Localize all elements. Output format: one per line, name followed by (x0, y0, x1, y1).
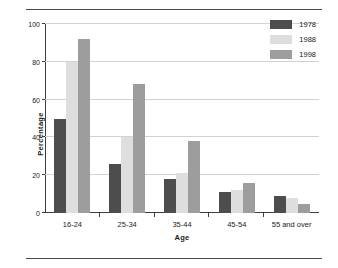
bar-group: 35-44 (155, 24, 210, 213)
x-axis-title: Age (45, 233, 319, 242)
x-tick-mark (154, 213, 155, 217)
x-tick-mark (208, 213, 209, 217)
bottom-divider-rule (26, 258, 322, 259)
y-tick-label: 100 (28, 21, 40, 28)
bar[interactable] (219, 192, 231, 213)
bar[interactable] (133, 84, 145, 213)
x-tick-label: 45-54 (209, 220, 264, 229)
y-tick-label: 60 (32, 96, 40, 103)
legend-swatch-icon (270, 35, 292, 44)
bar[interactable] (109, 164, 121, 213)
bar[interactable] (78, 39, 90, 213)
x-tick-label: 16-24 (45, 220, 100, 229)
y-tick-label: 20 (32, 172, 40, 179)
legend-label: 1988 (299, 35, 316, 44)
bar[interactable] (274, 196, 286, 213)
top-divider-rule (26, 9, 322, 10)
y-tick-label: 40 (32, 134, 40, 141)
legend-item[interactable]: 1978 (270, 20, 316, 29)
bar[interactable] (66, 62, 78, 213)
y-tick-label: 80 (32, 58, 40, 65)
bar[interactable] (164, 179, 176, 213)
legend-label: 1998 (299, 50, 316, 59)
bar[interactable] (243, 183, 255, 213)
legend-item[interactable]: 1988 (270, 35, 316, 44)
x-tick-label: 35-44 (155, 220, 210, 229)
legend-swatch-icon (270, 50, 292, 59)
bar[interactable] (54, 119, 66, 214)
x-tick-label: 55 and over (264, 220, 319, 229)
legend-item[interactable]: 1998 (270, 50, 316, 59)
bar[interactable] (121, 137, 133, 213)
bar[interactable] (176, 173, 188, 213)
bar[interactable] (286, 198, 298, 213)
x-tick-mark (263, 213, 264, 217)
x-tick-mark (99, 213, 100, 217)
bar-group: 16-24 (45, 24, 100, 213)
bar[interactable] (231, 190, 243, 213)
bar-group: 25-34 (100, 24, 155, 213)
x-tick-label: 25-34 (100, 220, 155, 229)
legend-swatch-icon (270, 20, 292, 29)
chart-page: Percentage 020406080100 16-2425-3435-444… (0, 0, 338, 268)
bar[interactable] (188, 141, 200, 213)
bar-chart-figure: Percentage 020406080100 16-2425-3435-444… (26, 14, 322, 254)
bar[interactable] (298, 204, 310, 213)
legend-label: 1978 (299, 20, 316, 29)
bar-group: 45-54 (209, 24, 264, 213)
y-tick-label: 0 (36, 210, 40, 217)
chart-legend: 197819881998 (270, 20, 316, 59)
plot-wrapper: Percentage 020406080100 16-2425-3435-444… (26, 14, 322, 254)
